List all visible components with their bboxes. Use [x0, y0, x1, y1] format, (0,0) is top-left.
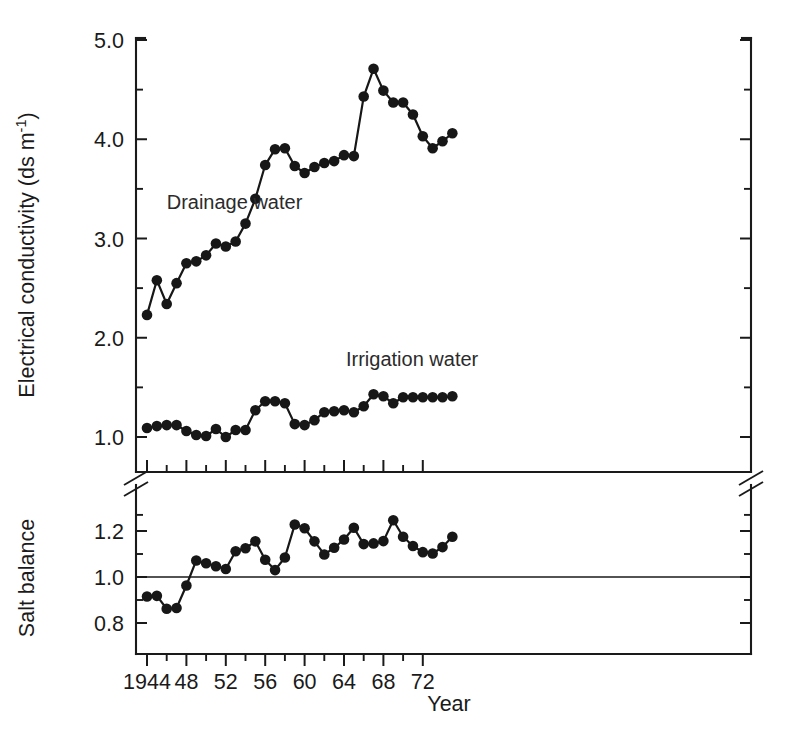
- data-point-salt-balance: [299, 523, 310, 534]
- lower-panel-y-tick-labels: 0.81.01.2: [94, 520, 124, 636]
- data-point-drainage-water: [358, 91, 369, 102]
- data-point-salt-balance: [211, 561, 222, 572]
- data-point-salt-balance: [181, 580, 192, 591]
- data-point-irrigation-water: [437, 392, 448, 403]
- chart-figure: 1.02.03.04.05.0 Drainage waterIrrigation…: [0, 0, 793, 746]
- data-point-drainage-water: [260, 160, 271, 171]
- x-axis-tick-label: 56: [253, 670, 277, 694]
- x-axis-title: Year: [427, 692, 470, 716]
- data-point-irrigation-water: [398, 392, 409, 403]
- chart-canvas: 1.02.03.04.05.0 Drainage waterIrrigation…: [0, 0, 793, 746]
- data-point-salt-balance: [152, 591, 163, 602]
- data-point-drainage-water: [398, 97, 409, 108]
- data-point-irrigation-water: [427, 392, 438, 403]
- data-point-salt-balance: [201, 558, 212, 569]
- data-point-drainage-water: [230, 236, 241, 247]
- data-point-drainage-water: [319, 158, 330, 169]
- data-point-irrigation-water: [161, 420, 172, 431]
- upper-y-tick-label: 3.0: [94, 228, 124, 252]
- data-point-irrigation-water: [418, 392, 429, 403]
- data-point-salt-balance: [349, 522, 360, 533]
- x-axis-tick-label: 60: [293, 670, 317, 694]
- data-point-salt-balance: [230, 546, 241, 557]
- data-point-salt-balance: [378, 536, 389, 547]
- data-point-drainage-water: [368, 63, 379, 74]
- data-point-irrigation-water: [368, 389, 379, 400]
- upper-y-tick-label: 5.0: [94, 29, 124, 53]
- x-axis-tick-label: 1944: [123, 670, 171, 694]
- data-point-salt-balance: [240, 543, 251, 554]
- data-point-salt-balance: [191, 555, 202, 566]
- data-point-irrigation-water: [230, 425, 241, 436]
- data-point-irrigation-water: [250, 405, 261, 416]
- y-axis-title-lower: Salt balance: [15, 519, 39, 637]
- y-axis-title-upper-text: Electrical conductivity (ds m: [15, 132, 39, 397]
- data-point-salt-balance: [398, 531, 409, 542]
- data-point-salt-balance: [437, 542, 448, 553]
- data-point-irrigation-water: [240, 425, 251, 436]
- x-axis-tick-label: 64: [332, 670, 356, 694]
- data-point-salt-balance: [250, 536, 261, 547]
- data-point-drainage-water: [418, 131, 429, 142]
- data-point-irrigation-water: [181, 426, 192, 437]
- data-point-irrigation-water: [211, 424, 222, 435]
- data-point-drainage-water: [289, 161, 300, 172]
- data-point-drainage-water: [221, 241, 232, 252]
- data-point-salt-balance: [408, 541, 419, 552]
- data-point-salt-balance: [339, 534, 350, 545]
- y-axis-title-upper: Electrical conductivity (ds m-1): [13, 112, 39, 397]
- lower-y-tick-label: 1.2: [94, 520, 124, 544]
- x-axis-tick-label: 48: [174, 670, 198, 694]
- data-point-drainage-water: [171, 278, 182, 289]
- x-axis-tick-label: 72: [411, 670, 435, 694]
- upper-y-tick-label: 4.0: [94, 128, 124, 152]
- data-point-salt-balance: [171, 603, 182, 614]
- data-point-salt-balance: [309, 536, 320, 547]
- data-point-drainage-water: [211, 238, 222, 249]
- data-point-salt-balance: [161, 603, 172, 614]
- data-point-irrigation-water: [142, 423, 153, 434]
- data-point-irrigation-water: [358, 401, 369, 412]
- upper-y-tick-label: 2.0: [94, 327, 124, 351]
- data-point-drainage-water: [329, 156, 340, 167]
- data-point-salt-balance: [368, 538, 379, 549]
- data-point-drainage-water: [181, 258, 192, 269]
- data-point-irrigation-water: [339, 405, 350, 416]
- data-point-drainage-water: [408, 109, 419, 120]
- data-point-irrigation-water: [191, 430, 202, 441]
- data-point-salt-balance: [142, 591, 153, 602]
- data-point-irrigation-water: [408, 392, 419, 403]
- series-annotation-irrigation-water: Irrigation water: [346, 348, 479, 370]
- data-point-drainage-water: [201, 250, 212, 261]
- series-annotation-drainage-water: Drainage water: [167, 191, 303, 213]
- data-point-irrigation-water: [260, 396, 271, 407]
- data-point-drainage-water: [447, 128, 458, 139]
- x-axis-tick-label: 52: [214, 670, 238, 694]
- data-point-drainage-water: [427, 143, 438, 154]
- data-point-drainage-water: [378, 85, 389, 96]
- y-axis-title-upper-superscript: -1: [13, 120, 29, 133]
- data-point-drainage-water: [299, 168, 310, 179]
- data-point-irrigation-water: [280, 398, 291, 409]
- data-point-salt-balance: [358, 539, 369, 550]
- data-point-irrigation-water: [388, 398, 399, 409]
- data-point-irrigation-water: [270, 396, 281, 407]
- data-point-drainage-water: [437, 136, 448, 147]
- data-point-drainage-water: [309, 162, 320, 173]
- data-point-irrigation-water: [319, 407, 330, 418]
- data-point-drainage-water: [339, 150, 350, 161]
- data-point-salt-balance: [427, 548, 438, 559]
- data-point-irrigation-water: [152, 421, 163, 432]
- data-point-drainage-water: [349, 151, 360, 162]
- data-point-drainage-water: [191, 256, 202, 267]
- data-point-irrigation-water: [171, 420, 182, 431]
- data-point-salt-balance: [289, 519, 300, 530]
- data-point-salt-balance: [329, 542, 340, 553]
- upper-y-tick-label: 1.0: [94, 426, 124, 450]
- data-point-salt-balance: [280, 552, 291, 563]
- data-point-salt-balance: [319, 549, 330, 560]
- data-point-salt-balance: [260, 554, 271, 565]
- data-point-drainage-water: [152, 275, 163, 286]
- data-point-drainage-water: [240, 218, 251, 229]
- lower-y-tick-label: 1.0: [94, 566, 124, 590]
